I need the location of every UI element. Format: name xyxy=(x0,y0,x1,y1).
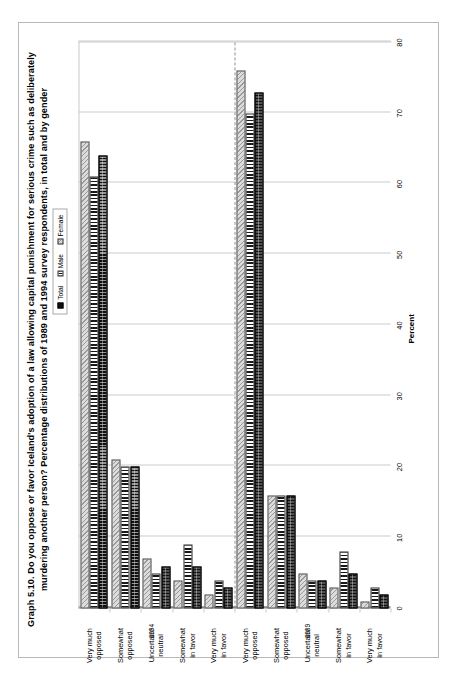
category-axis-tick xyxy=(234,608,235,612)
rotated-figure-wrapper: Graph 5.10. Do you oppose or favor Icela… xyxy=(18,22,437,656)
x-axis-tick-label: 20 xyxy=(394,454,403,480)
category-axis-tick xyxy=(265,608,266,612)
figure-page: Graph 5.10. Do you oppose or favor Icela… xyxy=(0,0,455,677)
year-group-label-1989: 1989 xyxy=(303,623,310,638)
x-axis-tick-label: 10 xyxy=(394,524,403,550)
legend-item-label: Male xyxy=(56,253,63,267)
bar-male xyxy=(183,544,192,608)
category-axis-tick xyxy=(172,608,173,612)
bar-male xyxy=(307,580,316,608)
category-label: Very muchin favor xyxy=(208,614,227,676)
bar-total xyxy=(348,573,357,608)
bar-total xyxy=(98,155,107,608)
bar-total xyxy=(130,467,139,609)
category-axis-tick xyxy=(296,608,297,612)
x-axis-tick-label: 30 xyxy=(394,383,403,409)
bar-female xyxy=(360,601,369,608)
male-swatch-icon xyxy=(57,270,63,276)
x-axis-tick-label: 50 xyxy=(394,241,403,267)
x-axis-tick-label: 40 xyxy=(394,312,403,338)
bar-total xyxy=(223,587,232,608)
x-axis-tick-label: 80 xyxy=(394,29,403,55)
bar-female xyxy=(236,70,245,608)
category-label: Very muchin favor xyxy=(364,614,383,676)
bar-total xyxy=(317,580,326,608)
bar-female xyxy=(80,141,89,608)
legend-item-label: Total xyxy=(56,285,63,299)
bar-male xyxy=(276,495,285,608)
x-axis-tick-label: 0 xyxy=(394,595,403,621)
legend-item-total: Total xyxy=(56,285,63,307)
legend-item-male: Male xyxy=(56,253,63,276)
category-axis-tick xyxy=(203,608,204,612)
x-axis-tick-label: 60 xyxy=(394,171,403,197)
chart-figure: Graph 5.10. Do you oppose or favor Icela… xyxy=(18,22,437,656)
bar-total xyxy=(161,566,170,608)
bar-female xyxy=(142,558,151,608)
chart-legend: TotalMaleFemale xyxy=(52,208,67,314)
female-swatch-icon xyxy=(57,238,63,244)
bar-female xyxy=(173,580,182,608)
bar-male xyxy=(339,551,348,608)
bar-female xyxy=(329,587,338,608)
legend-item-label: Female xyxy=(56,214,63,236)
x-axis-title: Percent xyxy=(406,314,415,343)
bar-female xyxy=(267,495,276,608)
category-label: Somewhatopposed xyxy=(115,614,134,676)
category-label: Somewhatin favor xyxy=(177,614,196,676)
total-swatch-icon xyxy=(57,302,63,308)
year-group-label-1994: 1994 xyxy=(147,623,154,638)
bar-male xyxy=(120,467,129,609)
category-axis-tick xyxy=(109,608,110,612)
bar-female xyxy=(204,594,213,608)
bar-total xyxy=(286,495,295,608)
bar-total xyxy=(379,594,388,608)
bar-male xyxy=(245,113,254,608)
year-group-separator xyxy=(234,42,235,608)
bar-male xyxy=(214,580,223,608)
page-title: Graph 5.10. Do you oppose or favor Icela… xyxy=(24,30,50,648)
bar-female xyxy=(298,573,307,608)
bar-female xyxy=(111,459,120,608)
category-axis-tick xyxy=(328,608,329,612)
bar-total xyxy=(254,92,263,608)
bar-male xyxy=(89,176,98,608)
category-axis-tick xyxy=(140,608,141,612)
category-label: Somewhatopposed xyxy=(271,614,290,676)
category-label: Somewhatin favor xyxy=(333,614,352,676)
bar-male xyxy=(151,573,160,608)
x-axis-tick-label: 70 xyxy=(394,100,403,126)
category-axis-tick xyxy=(359,608,360,612)
bar-total xyxy=(192,566,201,608)
category-axis-tick xyxy=(390,608,391,612)
legend-item-female: Female xyxy=(56,214,63,245)
category-label: Very muchopposed xyxy=(240,614,259,676)
bar-male xyxy=(370,587,379,608)
category-label: Very muchopposed xyxy=(84,614,103,676)
